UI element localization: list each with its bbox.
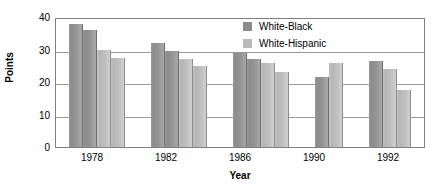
bar (97, 50, 111, 148)
y-tick-label: 20 (20, 78, 50, 88)
x-axis-title: Year (55, 170, 425, 181)
legend-label: White-Hispanic (259, 38, 326, 49)
bar-chart: Points 010203040 19781982198619901992 Ye… (0, 0, 436, 191)
bar (329, 63, 343, 148)
bar (369, 61, 383, 147)
legend-swatch-icon (243, 39, 252, 48)
legend-item: White-Black (243, 19, 363, 34)
bar-group (151, 19, 207, 147)
plot-area (55, 18, 425, 148)
legend-swatch-icon (243, 22, 252, 31)
bar (233, 53, 247, 147)
bar (193, 66, 207, 147)
bar (151, 43, 165, 147)
y-axis-tick-labels: 010203040 (20, 12, 50, 152)
bar (179, 59, 193, 147)
y-tick-label: 40 (20, 13, 50, 23)
bar (111, 58, 125, 147)
x-tick-label: 1986 (210, 152, 270, 166)
x-tick-label: 1990 (284, 152, 344, 166)
legend-label: White-Black (259, 21, 312, 32)
bar (315, 77, 329, 147)
y-tick-label: 0 (20, 143, 50, 153)
bar (83, 30, 97, 147)
x-tick-label: 1992 (358, 152, 418, 166)
bar (261, 63, 275, 148)
legend-item: White-Hispanic (243, 36, 363, 51)
chart-legend: White-BlackWhite-Hispanic (243, 19, 363, 53)
bar-group (369, 19, 411, 147)
bar-group (69, 19, 125, 147)
y-tick-label: 10 (20, 111, 50, 121)
x-tick-label: 1982 (136, 152, 196, 166)
bar (247, 59, 261, 147)
bar (383, 69, 397, 147)
bar (165, 51, 179, 147)
x-axis-tick-labels: 19781982198619901992 (55, 152, 425, 166)
y-axis-title: Points (4, 38, 15, 98)
x-tick-label: 1978 (62, 152, 122, 166)
y-tick-label: 30 (20, 46, 50, 56)
bar (69, 24, 83, 148)
bar (275, 72, 289, 147)
bar (397, 90, 411, 147)
bar-groups (56, 19, 424, 147)
